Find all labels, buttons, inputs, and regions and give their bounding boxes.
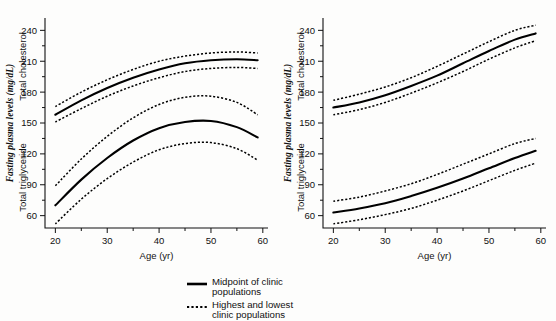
x-tick-label: 20 xyxy=(328,235,339,246)
y-tick-label: 90 xyxy=(304,179,315,190)
legend-item-range: Highest and lowest clinic populations xyxy=(186,299,416,321)
x-tick-label: 40 xyxy=(154,235,165,246)
curve-range xyxy=(333,25,535,100)
y-tick-label: 150 xyxy=(299,117,315,128)
x-tick-label: 20 xyxy=(50,235,61,246)
x-axis-title: Age (yr) xyxy=(140,250,174,261)
x-tick-label: 50 xyxy=(206,235,217,246)
chart-panel-left: 60901201501802102402030405060Age (yr)Fas… xyxy=(0,0,278,270)
legend-item-midpoint: Midpoint of clinic populations xyxy=(186,276,416,298)
y-axis-title-units: Fasting plasma levels (mg/dL) xyxy=(283,64,294,183)
x-tick-label: 30 xyxy=(380,235,391,246)
y-axis-title-triglyceride: Total triglyceride xyxy=(17,143,28,212)
legend-item-midpoint-label: Midpoint of clinic populations xyxy=(212,276,283,298)
curve-range xyxy=(333,163,535,224)
legend-midpoint-line2: populations xyxy=(212,287,283,297)
chart-panel-right: 60901201501802102402030405060Age (yr)Fas… xyxy=(278,0,556,270)
x-tick-label: 60 xyxy=(536,235,547,246)
y-tick-label: 90 xyxy=(26,179,37,190)
curve-midpoint xyxy=(55,121,257,206)
curve-range xyxy=(55,67,257,122)
axis-lines xyxy=(45,18,268,228)
figure-root: 60901201501802102402030405060Age (yr)Fas… xyxy=(0,0,556,321)
y-axis-title-cholesterol: Total cholesterol xyxy=(17,32,28,101)
axis-lines xyxy=(323,18,546,228)
chart-svg-right: 60901201501802102402030405060Age (yr)Fas… xyxy=(278,0,556,270)
y-tick-label: 150 xyxy=(21,117,37,128)
x-tick-label: 40 xyxy=(432,235,443,246)
x-axis-title: Age (yr) xyxy=(418,250,452,261)
y-axis-title-triglyceride: Total triglyceride xyxy=(295,143,306,212)
y-tick-label: 60 xyxy=(304,210,315,221)
y-axis-title-cholesterol: Total cholesterol xyxy=(295,32,306,101)
curve-midpoint xyxy=(333,33,535,107)
legend-solid-line-icon xyxy=(186,276,212,287)
x-tick-label: 30 xyxy=(102,235,113,246)
legend-range-line2: clinic populations xyxy=(212,310,293,320)
y-axis-title-units: Fasting plasma levels (mg/dL) xyxy=(5,64,16,183)
x-tick-label: 60 xyxy=(258,235,269,246)
curve-midpoint xyxy=(333,151,535,213)
legend-item-range-label: Highest and lowest clinic populations xyxy=(212,299,293,321)
legend-dotted-line-icon xyxy=(186,299,212,310)
curve-range xyxy=(55,142,257,224)
x-tick-label: 50 xyxy=(484,235,495,246)
chart-svg-left: 60901201501802102402030405060Age (yr)Fas… xyxy=(0,0,278,270)
y-tick-label: 60 xyxy=(26,210,37,221)
curve-range xyxy=(55,96,257,186)
curve-range xyxy=(333,138,535,201)
legend: Midpoint of clinic populations Highest a… xyxy=(186,276,416,321)
